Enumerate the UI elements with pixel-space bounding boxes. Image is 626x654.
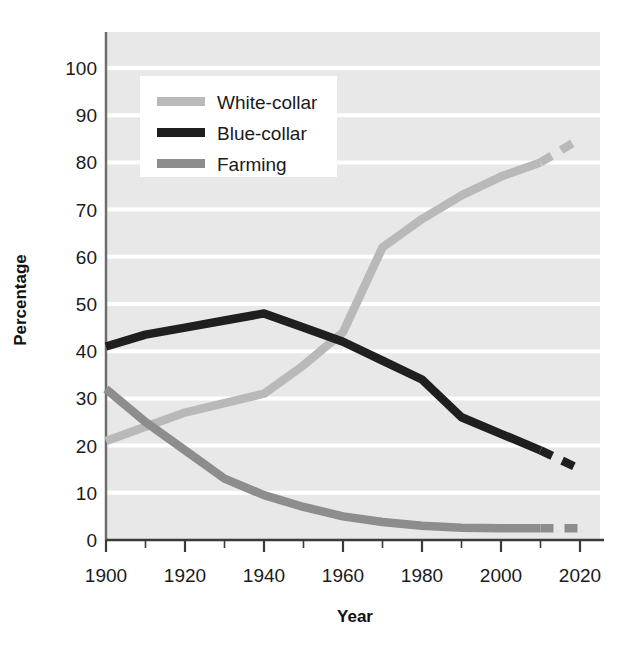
y-tick-label: 100	[65, 58, 97, 79]
y-tick-label: 20	[76, 436, 97, 457]
x-tick-label: 2020	[559, 565, 601, 586]
y-axis-tick-labels: 0102030405060708090100	[65, 58, 97, 551]
legend-swatch-icon	[157, 97, 205, 106]
employment-trend-line-chart: 1900192019401960198020002020 01020304050…	[0, 0, 626, 654]
x-tick-label: 1980	[401, 565, 443, 586]
y-tick-label: 80	[76, 152, 97, 173]
y-tick-label: 40	[76, 341, 97, 362]
chart-legend: White-collarBlue-collarFarming	[140, 76, 337, 177]
legend-item-label: Blue-collar	[217, 123, 307, 144]
legend-swatch-icon	[157, 159, 205, 168]
x-tick-label: 1920	[164, 565, 206, 586]
y-tick-label: 90	[76, 105, 97, 126]
x-tick-label: 1960	[322, 565, 364, 586]
y-tick-label: 0	[86, 530, 97, 551]
legend-item-label: Farming	[217, 154, 287, 175]
y-tick-label: 10	[76, 483, 97, 504]
y-tick-label: 30	[76, 388, 97, 409]
x-axis-tick-labels: 1900192019401960198020002020	[85, 565, 601, 586]
legend-item-label: White-collar	[217, 92, 318, 113]
y-tick-label: 60	[76, 247, 97, 268]
y-axis-title: Percentage	[11, 254, 30, 346]
chart-figure: 1900192019401960198020002020 01020304050…	[0, 0, 626, 654]
x-axis-ticks	[106, 540, 580, 552]
x-axis-title: Year	[337, 607, 373, 626]
y-tick-label: 70	[76, 200, 97, 221]
x-tick-label: 1940	[243, 565, 285, 586]
x-tick-label: 1900	[85, 565, 127, 586]
x-tick-label: 2000	[480, 565, 522, 586]
legend-swatch-icon	[157, 128, 205, 137]
y-tick-label: 50	[76, 294, 97, 315]
